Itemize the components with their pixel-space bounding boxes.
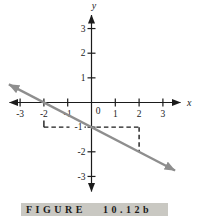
y-tick-label: 2 [81, 48, 86, 58]
y-tick-label: -3 [78, 172, 86, 182]
x-tick-label: 3 [161, 109, 166, 119]
figure-caption-label: FIGURE [26, 204, 86, 215]
x-tick-label: -3 [16, 109, 24, 119]
coordinate-plane-plot: -3-2-11230321-1-2-3xy [0, 0, 198, 200]
figure-caption: FIGURE 10.12b [21, 203, 168, 216]
figure-caption-number: 10.12b [103, 204, 152, 215]
y-tick-label-minus1: -1 [75, 122, 83, 132]
origin-label: 0 [96, 106, 101, 116]
x-tick-label: 1 [113, 109, 118, 119]
x-tick-label: 2 [137, 109, 142, 119]
x-tick-label: -2 [40, 109, 48, 119]
y-axis-label: y [91, 0, 97, 11]
x-axis-label: x [186, 97, 192, 108]
y-tick-label: 3 [81, 24, 86, 34]
y-tick-label: 1 [81, 73, 86, 83]
figure-10-12b: -3-2-11230321-1-2-3xy FIGURE 10.12b [0, 0, 198, 218]
y-tick-label: -2 [78, 147, 86, 157]
